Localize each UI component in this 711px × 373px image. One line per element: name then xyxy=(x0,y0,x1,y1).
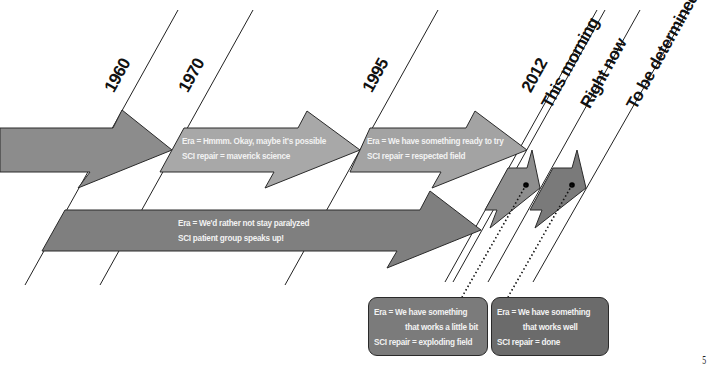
arrow-1995-era-label: Era = We have something ready to try xyxy=(367,133,504,148)
arrow-1970-text: Era = Hmmm. Okay, maybe it's possible SC… xyxy=(182,133,326,163)
arrow-patient-text: Era = We'd rather not stay paralyzed SCI… xyxy=(178,215,309,245)
callout-2-line-3: SCI repair = done xyxy=(497,334,589,349)
callout-1-line-3: SCI repair = exploding field xyxy=(374,334,468,349)
arrow-1970-era-label: Era = Hmmm. Okay, maybe it's possible xyxy=(182,133,326,148)
callout-2-line-2: that works well xyxy=(497,319,589,334)
callout-2-line-1: Era = We have something xyxy=(497,304,589,319)
callout-right-now: Era = We have something that works well … xyxy=(491,297,609,356)
arrow-patient-detail-label: SCI patient group speaks up! xyxy=(178,230,309,245)
page-number: 5 xyxy=(702,352,706,368)
arrow-1995-detail-label: SCI repair = respected field xyxy=(367,148,504,163)
arrow-1995-text: Era = We have something ready to try SCI… xyxy=(367,133,504,163)
arrow-patient-era-label: Era = We'd rather not stay paralyzed xyxy=(178,215,309,230)
callout-1-line-1: Era = We have something xyxy=(374,304,468,319)
callout-this-morning: Era = We have something that works a lit… xyxy=(368,297,488,356)
arrow-1970-detail-label: SCI repair = maverick science xyxy=(182,148,326,163)
callout-1-line-2: that works a little bit xyxy=(374,319,468,334)
